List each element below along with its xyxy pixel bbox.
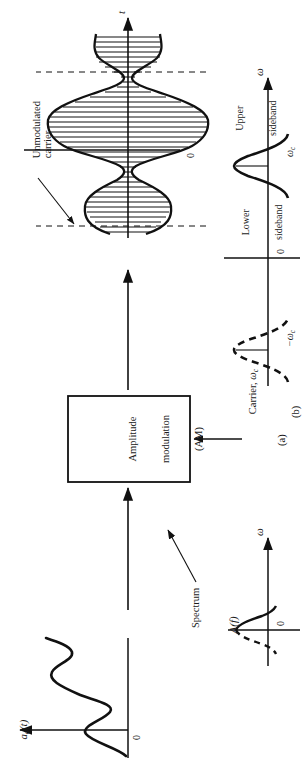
negative-carrier-omega: −ω [284,333,295,347]
input-signal-subscript: a [21,730,30,734]
figure-canvas: aa(t) 0 Amplitude modulation (AM) Carrie… [0,0,302,778]
am-block-line-3: (AM) [193,400,204,478]
carrier-omega-subscript: c [251,369,260,372]
lower-sideband-label: Lower sideband [218,204,302,240]
upper-sideband-line-1: Upper [234,100,245,136]
am-block-line-2: modulation [160,400,171,478]
upper-sideband-label: Upper sideband [212,100,300,136]
input-signal-label: aa(t) [6,720,42,756]
unmodulated-carrier-line-2: carrier [42,131,53,158]
baseband-amplitude-symbol: A [227,627,239,634]
spectrum-link-label: Spectrum [190,588,201,628]
baseband-zero-label: 0 [276,621,287,626]
upper-sideband-line-2: sideband [267,100,278,136]
negative-carrier-subscript: c [288,330,296,333]
output-zero-label: 0 [186,153,197,158]
positive-carrier-tick-label: ωc [274,147,302,172]
positive-carrier-subscript: c [288,147,296,150]
positive-carrier-omega: ω [284,150,295,157]
am-block-label: Amplitude modulation (AM) [105,400,226,478]
lower-sideband-line-1: Lower [240,204,251,240]
panel-b-caption: (b) [290,406,301,418]
spectrum-leader-arrow [168,530,196,582]
panel-a-caption: (a) [276,434,287,446]
unmodulated-carrier-annotation: Unmodulated carrier [20,101,64,174]
am-omega-axis-label: ω [254,68,266,76]
carrier-text: Carrier, [247,380,258,415]
figure-page: aa(t) 0 Amplitude modulation (AM) Carrie… [0,0,302,778]
carrier-label: Carrier, ωc [236,369,271,430]
input-signal-symbol: a [17,734,29,740]
baseband-amplitude-argument: (f) [227,616,239,626]
unmodulated-carrier-line-1: Unmodulated [31,101,42,158]
negative-carrier-tick-label: −ωc [274,330,302,362]
output-time-axis-label: t [116,11,128,14]
lower-sideband-line-2: sideband [273,204,284,240]
input-signal-argument: (t) [17,720,29,730]
baseband-omega-axis-label: ω [254,528,266,536]
am-block-line-1: Amplitude [127,400,138,478]
input-zero-label: 0 [132,735,143,740]
baseband-amplitude-label: A(f) [216,616,251,650]
carrier-omega: ω [247,372,258,379]
am-zero-label: 0 [276,249,287,254]
